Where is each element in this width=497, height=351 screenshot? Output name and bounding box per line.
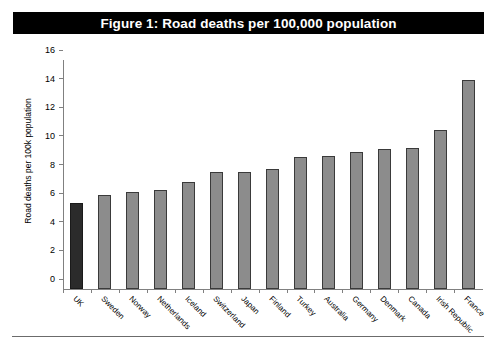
bar-slot bbox=[287, 60, 315, 289]
x-label-slot: Germany bbox=[342, 291, 370, 351]
bar-slot bbox=[426, 60, 454, 289]
y-axis-tick-label: 0 bbox=[50, 274, 59, 284]
y-axis-tick-label: 4 bbox=[50, 217, 59, 227]
x-label-slot: Switzerland bbox=[203, 291, 231, 351]
y-axis-tick: 14 bbox=[45, 74, 63, 84]
x-label-slot: Turkey bbox=[287, 291, 315, 351]
bar-iceland[interactable] bbox=[182, 182, 195, 289]
y-axis-title: Road deaths per 100k population bbox=[23, 71, 33, 251]
bar-finland[interactable] bbox=[266, 169, 279, 289]
bar-slot bbox=[398, 60, 426, 289]
x-label-slot: Japan bbox=[231, 291, 259, 351]
bar-slot bbox=[63, 60, 91, 289]
footer-divider bbox=[12, 336, 484, 337]
plot-area: 0246810121416 bbox=[63, 60, 482, 289]
y-axis-tick: 8 bbox=[50, 160, 63, 170]
bar-series bbox=[63, 60, 482, 289]
y-axis-tick: 6 bbox=[50, 188, 63, 198]
y-axis-tick-label: 14 bbox=[45, 74, 59, 84]
x-label-slot: Norway bbox=[119, 291, 147, 351]
bar-slot bbox=[175, 60, 203, 289]
bar-netherlands[interactable] bbox=[154, 190, 167, 289]
x-axis-category-labels: UKSwedenNorwayNetherlandsIcelandSwitzerl… bbox=[63, 291, 482, 351]
x-axis-label-france: France bbox=[462, 295, 485, 318]
bar-slot bbox=[147, 60, 175, 289]
page-title: Figure 1: Road deaths per 100,000 popula… bbox=[100, 16, 396, 31]
x-axis-label-japan: Japan bbox=[239, 295, 260, 316]
y-axis-tick-label: 10 bbox=[45, 131, 59, 141]
x-label-slot: Iceland bbox=[175, 291, 203, 351]
bar-france[interactable] bbox=[462, 80, 475, 289]
x-label-slot: Australia bbox=[314, 291, 342, 351]
x-label-slot: Denmark bbox=[370, 291, 398, 351]
y-axis-tick: 2 bbox=[50, 245, 63, 255]
bar-australia[interactable] bbox=[322, 156, 335, 289]
x-label-slot: Sweden bbox=[91, 291, 119, 351]
x-axis-label-uk: UK bbox=[71, 295, 85, 309]
x-label-slot: Canada bbox=[398, 291, 426, 351]
bar-turkey[interactable] bbox=[294, 157, 307, 289]
bar-japan[interactable] bbox=[238, 172, 251, 289]
bar-slot bbox=[91, 60, 119, 289]
bar-slot bbox=[314, 60, 342, 289]
bar-slot bbox=[259, 60, 287, 289]
bar-slot bbox=[342, 60, 370, 289]
bar-uk[interactable] bbox=[70, 203, 83, 289]
x-label-slot: France bbox=[454, 291, 482, 351]
bar-sweden[interactable] bbox=[98, 195, 111, 289]
y-axis-tick: 10 bbox=[45, 131, 63, 141]
x-label-slot: Irish Republic bbox=[426, 291, 454, 351]
bar-norway[interactable] bbox=[126, 192, 139, 289]
y-axis-tick-label: 16 bbox=[45, 45, 59, 55]
y-axis-tick-label: 2 bbox=[50, 245, 59, 255]
x-axis-line bbox=[63, 289, 483, 290]
y-axis-tick-mark bbox=[59, 50, 63, 51]
x-label-slot: UK bbox=[63, 291, 91, 351]
bar-denmark[interactable] bbox=[378, 149, 391, 289]
bar-slot bbox=[454, 60, 482, 289]
x-label-slot: Netherlands bbox=[147, 291, 175, 351]
bar-chart: Road deaths per 100k population 02468101… bbox=[0, 36, 497, 326]
bar-slot bbox=[370, 60, 398, 289]
y-axis-tick: 12 bbox=[45, 102, 63, 112]
bar-germany[interactable] bbox=[350, 152, 363, 289]
bar-slot bbox=[231, 60, 259, 289]
bar-slot bbox=[203, 60, 231, 289]
bar-switzerland[interactable] bbox=[210, 172, 223, 289]
y-axis-tick: 4 bbox=[50, 217, 63, 227]
y-axis-tick-label: 12 bbox=[45, 102, 59, 112]
figure-title-banner: Figure 1: Road deaths per 100,000 popula… bbox=[13, 12, 484, 34]
y-axis-tick: 0 bbox=[50, 274, 63, 284]
y-axis-tick: 16 bbox=[45, 45, 63, 55]
y-axis-tick-label: 8 bbox=[50, 160, 59, 170]
x-label-slot: Finland bbox=[259, 291, 287, 351]
bar-irish-republic[interactable] bbox=[434, 130, 447, 289]
bar-canada[interactable] bbox=[406, 148, 419, 289]
y-axis-tick-label: 6 bbox=[50, 188, 59, 198]
bar-slot bbox=[119, 60, 147, 289]
